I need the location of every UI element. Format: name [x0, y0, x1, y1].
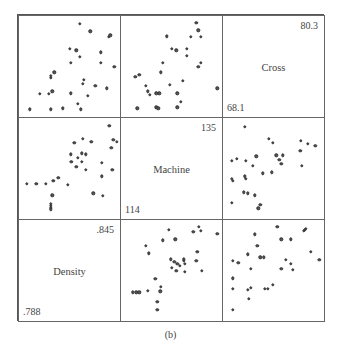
machine-max-value: 135	[201, 122, 216, 133]
data-point	[170, 47, 173, 50]
data-point	[175, 49, 178, 52]
data-point	[161, 238, 164, 241]
cross-min-value: 68.1	[227, 102, 245, 113]
data-point	[247, 297, 250, 300]
cross-max-value: 80.3	[301, 20, 319, 31]
data-point	[70, 160, 73, 163]
data-point	[158, 290, 161, 293]
data-point	[49, 108, 52, 111]
data-point	[314, 144, 317, 147]
data-point	[69, 153, 72, 156]
data-point	[78, 55, 81, 58]
data-point	[189, 35, 192, 38]
data-point	[66, 183, 69, 186]
data-point	[215, 232, 218, 235]
data-point	[167, 228, 170, 231]
data-point	[235, 157, 238, 160]
data-point	[257, 207, 260, 210]
data-point	[93, 84, 96, 87]
data-point	[289, 262, 292, 265]
data-point	[246, 192, 249, 195]
data-point	[53, 71, 56, 74]
data-point	[289, 237, 292, 240]
data-point	[76, 156, 79, 159]
data-point	[279, 162, 282, 165]
data-point	[144, 244, 147, 247]
data-point	[157, 107, 160, 110]
panel-machine-vs-cross-scatter	[222, 117, 325, 220]
data-point	[183, 262, 186, 265]
data-point	[279, 237, 282, 240]
data-point	[147, 252, 150, 255]
data-point	[176, 106, 179, 109]
data-point	[73, 141, 76, 144]
data-point	[231, 179, 234, 182]
data-point	[271, 283, 274, 286]
data-point	[109, 33, 112, 36]
data-point	[101, 194, 104, 197]
data-point	[51, 193, 54, 196]
data-point	[199, 229, 202, 232]
data-point	[199, 35, 202, 38]
machine-variable-label: Machine	[121, 163, 222, 174]
data-point	[47, 92, 50, 95]
data-point	[174, 237, 177, 240]
data-point	[300, 164, 303, 167]
data-point	[156, 300, 159, 303]
data-point	[136, 107, 139, 110]
data-point	[195, 259, 198, 262]
data-point	[56, 176, 59, 179]
data-point	[192, 230, 195, 233]
data-point	[25, 182, 28, 185]
data-point	[262, 256, 265, 259]
data-point	[161, 61, 164, 64]
data-point	[304, 227, 307, 230]
density-max-value: .845	[97, 224, 115, 235]
data-point	[100, 161, 103, 164]
data-point	[266, 287, 269, 290]
data-point	[298, 149, 301, 152]
data-point	[196, 65, 199, 68]
data-point	[195, 21, 198, 24]
data-point	[199, 61, 202, 64]
data-point	[154, 277, 157, 280]
data-point	[84, 168, 87, 171]
data-point	[86, 94, 89, 97]
data-point	[68, 47, 71, 50]
data-point	[159, 285, 162, 288]
data-point	[275, 154, 278, 157]
data-point	[111, 168, 114, 171]
data-point	[181, 79, 184, 82]
data-point	[138, 73, 141, 76]
data-point	[28, 108, 31, 111]
density-min-value: .788	[23, 306, 41, 317]
cross-variable-label: Cross	[223, 61, 324, 72]
data-point	[69, 91, 72, 94]
data-point	[249, 267, 252, 270]
panel-cross-diagonal: 80.3 Cross 68.1	[222, 15, 325, 118]
data-point	[138, 291, 141, 294]
data-point	[156, 308, 159, 311]
figure-caption: (b)	[0, 329, 341, 340]
data-point	[134, 75, 137, 78]
data-point	[259, 203, 262, 206]
data-point	[279, 267, 282, 270]
machine-min-value: 114	[125, 204, 140, 215]
data-point	[49, 76, 52, 79]
data-point	[157, 91, 160, 94]
data-point	[185, 47, 188, 50]
data-point	[90, 140, 93, 143]
data-point	[255, 154, 258, 157]
data-point	[79, 108, 82, 111]
data-point	[253, 233, 256, 236]
data-point	[112, 65, 115, 68]
data-point	[92, 192, 95, 195]
data-point	[35, 182, 38, 185]
data-point	[81, 137, 84, 140]
data-point	[249, 286, 252, 289]
data-point	[317, 258, 320, 261]
data-point	[146, 289, 149, 292]
data-point	[176, 91, 179, 94]
data-point	[256, 244, 259, 247]
data-point	[281, 154, 284, 157]
